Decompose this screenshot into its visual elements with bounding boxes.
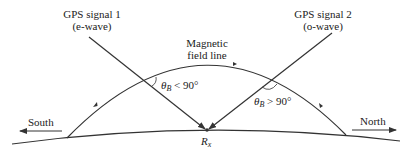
magnetic-field-label-line1: Magnetic [182,37,232,49]
gps-signal-1-subtitle: (e-wave) [52,20,132,32]
angle-arc-2 [262,84,277,89]
receiver-symbol: R [201,135,208,147]
receiver-subscript: x [208,140,212,149]
gps-signal-2-title: GPS signal 2 [283,8,363,20]
receiver-point [205,128,209,132]
north-label: North [360,115,386,127]
field-line-arrow-right-icon [319,103,323,108]
angle-label-1: θB < 90° [161,79,198,95]
angle-label-2: θB > 90° [254,95,291,111]
field-line-arrow-top-icon [233,62,237,66]
receiver-label: Rx [201,135,211,151]
gps-signal-1-label: GPS signal 1 (e-wave) [52,8,132,32]
gps-signal-2-subtitle: (o-wave) [283,20,363,32]
angle-2-relation: > 90° [264,95,291,107]
gps-signal-2-label: GPS signal 2 (o-wave) [283,8,363,32]
south-label: South [28,116,54,128]
angle-1-relation: < 90° [171,79,198,91]
magnetic-field-line [67,65,346,138]
magnetic-field-label-line2: field line [182,49,232,61]
angle-arc-1 [152,77,156,86]
gps-signal-1-title: GPS signal 1 [52,8,132,20]
field-line-arrow-left-icon [93,102,98,107]
magnetic-field-label: Magnetic field line [182,37,232,61]
